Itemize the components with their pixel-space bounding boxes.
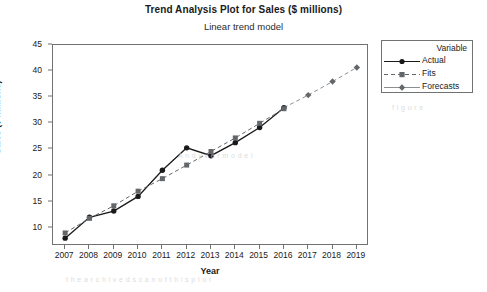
y-tick-label: 15 bbox=[24, 196, 42, 206]
legend-item-fits[interactable]: Fits bbox=[382, 67, 472, 80]
legend-label-fits: Fits bbox=[422, 67, 436, 80]
chart-subtitle: Linear trend model bbox=[0, 21, 487, 32]
series-forecasts bbox=[305, 64, 360, 98]
legend-label-actual: Actual bbox=[422, 54, 446, 67]
legend-title: Variable bbox=[382, 43, 472, 54]
legend-item-actual[interactable]: Actual bbox=[382, 54, 472, 67]
y-tick-label: 30 bbox=[24, 117, 42, 127]
scan-artifact: t h e a r c h i v e d s c a n o f t h i … bbox=[66, 276, 211, 283]
legend-box: Variable Actual Fits bbox=[381, 40, 473, 93]
legend-key-forecasts bbox=[382, 80, 422, 93]
series-actual bbox=[62, 105, 286, 241]
legend-key-actual bbox=[382, 54, 422, 67]
y-axis-label: Sales ($ millions) bbox=[0, 80, 2, 154]
legend-label-forecasts: Forecasts bbox=[422, 80, 459, 93]
plot-area bbox=[52, 44, 368, 245]
chart-figure: Trend Analysis Plot for Sales ($ million… bbox=[0, 0, 487, 292]
x-axis-label: Year bbox=[52, 266, 368, 276]
scan-artifact: f i g u r e bbox=[392, 104, 424, 111]
forecast-connector bbox=[284, 95, 308, 108]
y-tick-label: 40 bbox=[24, 65, 42, 75]
data-series-layer bbox=[53, 45, 369, 246]
y-tick-label: 10 bbox=[24, 222, 42, 232]
legend-item-forecasts[interactable]: Forecasts bbox=[382, 80, 472, 93]
legend-key-fits bbox=[382, 67, 422, 80]
y-tick-label: 25 bbox=[24, 143, 42, 153]
y-tick-label: 45 bbox=[24, 39, 42, 49]
chart-title: Trend Analysis Plot for Sales ($ million… bbox=[0, 4, 487, 15]
y-tick-label: 35 bbox=[24, 91, 42, 101]
y-tick-label: 20 bbox=[24, 170, 42, 180]
x-tick-label: 2019 bbox=[339, 250, 373, 260]
